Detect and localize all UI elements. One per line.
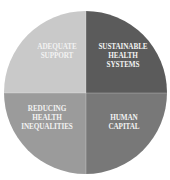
label-adequate-support: ADEQUATE SUPPORT xyxy=(32,43,82,61)
quadrant-pie-diagram xyxy=(4,11,167,174)
horizontal-divider xyxy=(4,92,167,93)
label-human-capital: HUMAN CAPITAL xyxy=(98,114,150,132)
label-sustainable-health-systems: SUSTAINABLE HEALTH SYSTEMS xyxy=(92,43,154,70)
quadrant-human-capital xyxy=(86,93,168,175)
label-reducing-health-inequalities: REDUCING HEALTH INEQUALITIES xyxy=(16,105,78,132)
